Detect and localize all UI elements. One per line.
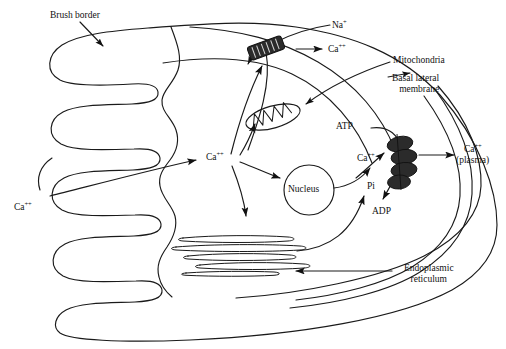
label-ca-plasma: Ca++ (plasma)	[456, 142, 489, 167]
cell-outline-brush-border	[50, 23, 497, 341]
label-er-line1: Endoplasmic	[404, 263, 454, 274]
label-ca-plasma-species: Ca	[464, 144, 475, 154]
label-atp: ATP	[336, 121, 353, 132]
label-er-line2: reticulum	[404, 274, 454, 285]
label-ca-pump-text: Ca	[357, 153, 368, 163]
arrow-ca-lumen-to-cytosol	[50, 160, 196, 196]
label-ca-cytosol-charge: ++	[217, 150, 224, 157]
label-na-charge: +	[343, 18, 346, 25]
label-ca-lumen-text: Ca	[14, 202, 25, 212]
label-ca-cytosol-text: Ca	[206, 152, 217, 162]
endoplasmic-reticulum-cisternae	[172, 236, 311, 277]
arrow-ca-to-mitochondria	[240, 124, 255, 155]
cell-diagram-svg	[0, 0, 506, 349]
label-ca-apical-charge: ++	[339, 42, 346, 49]
label-ca-cytosol: Ca++	[206, 150, 223, 163]
label-ca-lumen: Ca++	[14, 200, 31, 213]
label-ca-plasma-line2: (plasma)	[456, 155, 489, 166]
label-adp: ADP	[372, 206, 391, 217]
apical-cytoplasm-boundary	[158, 27, 180, 297]
label-basal-lateral-line1: Basal lateral	[392, 73, 439, 84]
label-ca-pump-inner: Ca++	[357, 151, 374, 164]
label-ca-apical: Ca++	[328, 42, 345, 55]
label-basal-lateral-line2: membrane	[392, 84, 439, 95]
label-ca-plasma-line1: Ca++	[456, 142, 489, 155]
arrow-ca-to-er	[232, 166, 246, 216]
label-endoplasmic-reticulum: Endoplasmic reticulum	[404, 263, 454, 285]
label-na-plus: Na+	[332, 18, 347, 31]
label-mitochondria: Mitochondria	[393, 55, 445, 66]
label-brush-border: Brush border	[50, 10, 100, 21]
apical-membrane-arc-outer	[190, 27, 395, 150]
figure-canvas: Brush border Na+ Ca++ Mitochondria Basal…	[0, 0, 506, 349]
arrow-ca-cytosol-up-branch	[231, 66, 262, 154]
label-ca-apical-text: Ca	[328, 44, 339, 54]
calcium-atpase-pump-icon	[386, 134, 418, 190]
label-basal-lateral-membrane: Basal lateral membrane	[392, 73, 439, 95]
label-na-text: Na	[332, 20, 343, 30]
label-pi: Pi	[367, 181, 375, 192]
arrow-pi-from-er	[297, 196, 364, 251]
leader-brush-border	[80, 22, 103, 46]
label-ca-lumen-charge: ++	[25, 200, 32, 207]
label-ca-plasma-charge: ++	[474, 142, 481, 149]
label-nucleus: Nucleus	[288, 184, 319, 195]
label-ca-pump-charge: ++	[368, 151, 375, 158]
arrow-ca-to-nucleus	[240, 162, 280, 178]
ca-lumen-leader	[39, 158, 53, 190]
